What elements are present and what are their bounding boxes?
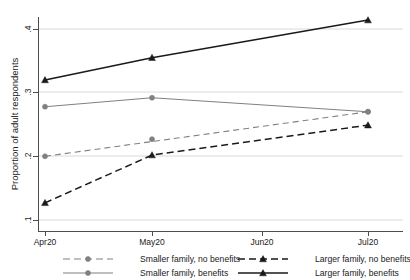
series-line — [45, 112, 368, 157]
series-line — [45, 98, 368, 112]
x-tick-label-jul20: Jul20 — [358, 237, 379, 247]
y-axis: .4 .3 .2 .1 Proportion of adult responde… — [9, 17, 39, 231]
legend-label: Smaller family, no benefits — [140, 254, 240, 264]
x-axis: Apr20 May20 Jun20 Jul20 — [34, 231, 403, 247]
data-point-May20 — [150, 95, 155, 100]
y-axis-title: Proportion of adult respondents — [9, 57, 20, 190]
legend-marker — [86, 271, 91, 276]
legend-label: Larger family, no benefits — [315, 254, 410, 264]
series-smaller-family-benefits — [43, 95, 371, 114]
legend-item-larger-family-benefits[interactable]: Larger family, benefits — [238, 268, 399, 278]
data-point-Apr20 — [43, 154, 48, 159]
y-tick-label-0.3: .3 — [23, 88, 33, 95]
series-layer — [42, 17, 372, 206]
x-tick-label-may20: May20 — [139, 237, 165, 247]
legend-label: Smaller family, benefits — [140, 268, 228, 278]
series-smaller-family-no-benefits — [43, 109, 371, 159]
chart-svg: .4 .3 .2 .1 Proportion of adult responde… — [0, 0, 410, 280]
legend-item-smaller-family-benefits[interactable]: Smaller family, benefits — [63, 268, 228, 278]
data-point-Jul20 — [366, 109, 371, 114]
line-chart: .4 .3 .2 .1 Proportion of adult responde… — [0, 0, 410, 280]
data-point-May20 — [150, 137, 155, 142]
y-tick-label-0.4: .4 — [23, 25, 33, 32]
data-point-May20 — [149, 152, 156, 158]
data-point-Apr20 — [43, 104, 48, 109]
legend-item-larger-family-no-benefits[interactable]: Larger family, no benefits — [238, 254, 410, 264]
x-tick-label-apr20: Apr20 — [34, 237, 57, 247]
series-larger-family-benefits — [42, 17, 372, 83]
chart-legend: Smaller family, no benefitsLarger family… — [63, 254, 410, 278]
legend-label: Larger family, benefits — [315, 268, 399, 278]
gridlines — [38, 29, 403, 220]
x-tick-label-jun20: Jun20 — [250, 237, 273, 247]
legend-marker — [86, 257, 91, 262]
series-line — [45, 125, 368, 203]
y-tick-label-0.1: .1 — [23, 216, 33, 223]
legend-item-smaller-family-no-benefits[interactable]: Smaller family, no benefits — [63, 254, 240, 264]
y-tick-label-0.2: .2 — [23, 152, 33, 159]
